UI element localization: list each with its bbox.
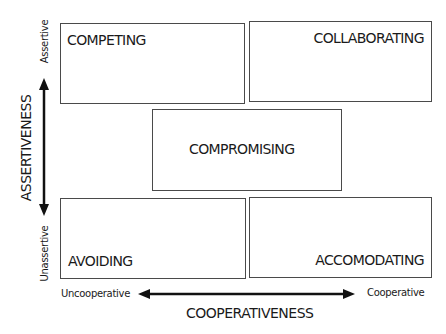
unassertive-label: Unassertive: [39, 224, 50, 284]
assertive-label: Assertive: [39, 20, 50, 64]
axis-arrows: [0, 0, 446, 334]
arrow-left-icon: [138, 289, 150, 299]
x-axis-title: COOPERATIVENESS: [186, 305, 313, 321]
uncooperative-label: Uncooperative: [61, 288, 130, 299]
arrow-up-icon: [39, 78, 49, 90]
y-axis-title: ASSERTIVENESS: [18, 88, 34, 208]
arrow-right-icon: [343, 289, 355, 299]
cooperative-label: Cooperative: [367, 287, 424, 298]
arrow-down-icon: [39, 204, 49, 216]
